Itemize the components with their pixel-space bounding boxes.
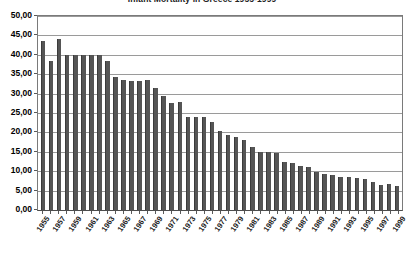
bar bbox=[218, 131, 223, 210]
x-axis-tick-mark bbox=[82, 211, 83, 214]
bar-slot bbox=[305, 16, 313, 210]
x-axis-tick-mark bbox=[277, 211, 278, 214]
bar bbox=[290, 163, 295, 210]
bar-slot bbox=[119, 16, 127, 210]
bar bbox=[169, 103, 174, 210]
bar bbox=[194, 117, 199, 210]
x-axis-tick-mark bbox=[244, 211, 245, 214]
bar bbox=[65, 55, 70, 210]
x-axis-tick-label: 1993 bbox=[343, 215, 359, 233]
bar-slot bbox=[208, 16, 216, 210]
x-axis-tick-mark bbox=[398, 211, 399, 214]
x-axis-tick-label: 1971 bbox=[165, 215, 181, 233]
bar-slot bbox=[71, 16, 79, 210]
bar-slot bbox=[353, 16, 361, 210]
x-axis-tick-label: 1955 bbox=[35, 215, 51, 233]
x-axis-tick-label: 1961 bbox=[84, 215, 100, 233]
x-axis-tick-mark bbox=[260, 211, 261, 214]
bar-slot bbox=[280, 16, 288, 210]
x-axis-tick-label: 1957 bbox=[52, 215, 68, 233]
x-axis-tick-mark bbox=[333, 211, 334, 214]
x-axis-tick-mark bbox=[212, 211, 213, 214]
x-axis-tick-mark bbox=[269, 211, 270, 214]
bar bbox=[266, 152, 271, 210]
bar bbox=[347, 177, 352, 210]
bar-series bbox=[38, 16, 402, 210]
bar-slot bbox=[79, 16, 87, 210]
bar-slot bbox=[248, 16, 256, 210]
bar-slot bbox=[103, 16, 111, 210]
bar-slot bbox=[385, 16, 393, 210]
bar-slot bbox=[111, 16, 119, 210]
bar-slot bbox=[55, 16, 63, 210]
y-axis-tick-label: 10,00 bbox=[11, 166, 32, 175]
x-axis-tick-label: 1979 bbox=[229, 215, 245, 233]
bar bbox=[355, 178, 360, 210]
x-axis-tick-mark bbox=[358, 211, 359, 214]
bar bbox=[129, 81, 134, 210]
x-axis-tick-mark bbox=[341, 211, 342, 214]
bar-slot bbox=[272, 16, 280, 210]
x-axis-tick-mark bbox=[366, 211, 367, 214]
bar bbox=[137, 81, 142, 210]
bar-slot bbox=[256, 16, 264, 210]
bar-slot bbox=[393, 16, 401, 210]
x-axis-tick-label: 1983 bbox=[262, 215, 278, 233]
bar-slot bbox=[200, 16, 208, 210]
x-axis-tick-mark bbox=[301, 211, 302, 214]
chart-title: Infant Mortality in Greece 1955-1999 bbox=[0, 0, 404, 4]
bar bbox=[274, 153, 279, 210]
x-axis-tick-mark bbox=[309, 211, 310, 214]
bar bbox=[73, 55, 78, 210]
bar-slot bbox=[232, 16, 240, 210]
bar-slot bbox=[136, 16, 144, 210]
x-axis-tick-label: 1981 bbox=[246, 215, 262, 233]
x-axis-tick-mark bbox=[91, 211, 92, 214]
bar bbox=[113, 77, 118, 210]
x-axis-tick-label: 1995 bbox=[359, 215, 375, 233]
x-axis-tick-mark bbox=[66, 211, 67, 214]
bar-slot bbox=[87, 16, 95, 210]
bar-slot bbox=[240, 16, 248, 210]
bar bbox=[186, 117, 191, 211]
x-axis-tick-mark bbox=[382, 211, 383, 214]
y-axis-tick-label: 30,00 bbox=[11, 88, 32, 97]
x-axis-tick-mark bbox=[196, 211, 197, 214]
x-axis-tick-label: 1985 bbox=[278, 215, 294, 233]
x-axis-tick-label: 1959 bbox=[68, 215, 84, 233]
bar bbox=[121, 80, 126, 210]
y-axis-tick-label: 40,00 bbox=[11, 50, 32, 59]
y-axis-tick-label: 25,00 bbox=[11, 108, 32, 117]
x-axis-tick-mark bbox=[99, 211, 100, 214]
bar-slot bbox=[377, 16, 385, 210]
bar bbox=[371, 182, 376, 210]
x-axis: 1955195719591961196319651967196919711973… bbox=[37, 211, 403, 255]
y-axis-tick-label: 20,00 bbox=[11, 127, 32, 136]
bar-slot bbox=[321, 16, 329, 210]
x-axis-tick-mark bbox=[147, 211, 148, 214]
x-axis-tick-mark bbox=[58, 211, 59, 214]
x-axis-tick-label: 1975 bbox=[197, 215, 213, 233]
x-axis-tick-label: 1969 bbox=[149, 215, 165, 233]
y-axis-tick-label: 15,00 bbox=[11, 147, 32, 156]
bar-slot bbox=[369, 16, 377, 210]
x-axis-tick-label: 1987 bbox=[294, 215, 310, 233]
x-axis-tick-mark bbox=[42, 211, 43, 214]
x-axis-tick-mark bbox=[220, 211, 221, 214]
x-axis-tick-mark bbox=[107, 211, 108, 214]
x-axis-tick-label: 1999 bbox=[391, 215, 407, 233]
bar bbox=[89, 55, 94, 210]
bar bbox=[202, 117, 207, 210]
bar bbox=[81, 55, 86, 210]
bar bbox=[258, 152, 263, 210]
x-axis-tick-mark bbox=[188, 211, 189, 214]
x-axis-tick-label: 1977 bbox=[213, 215, 229, 233]
plot-area bbox=[37, 15, 403, 211]
x-axis-tick-mark bbox=[163, 211, 164, 214]
x-axis-tick-mark bbox=[390, 211, 391, 214]
y-axis-tick-label: 50,00 bbox=[11, 11, 32, 20]
x-axis-tick-mark bbox=[131, 211, 132, 214]
bar bbox=[226, 135, 231, 210]
bar-slot bbox=[144, 16, 152, 210]
bar-slot bbox=[95, 16, 103, 210]
